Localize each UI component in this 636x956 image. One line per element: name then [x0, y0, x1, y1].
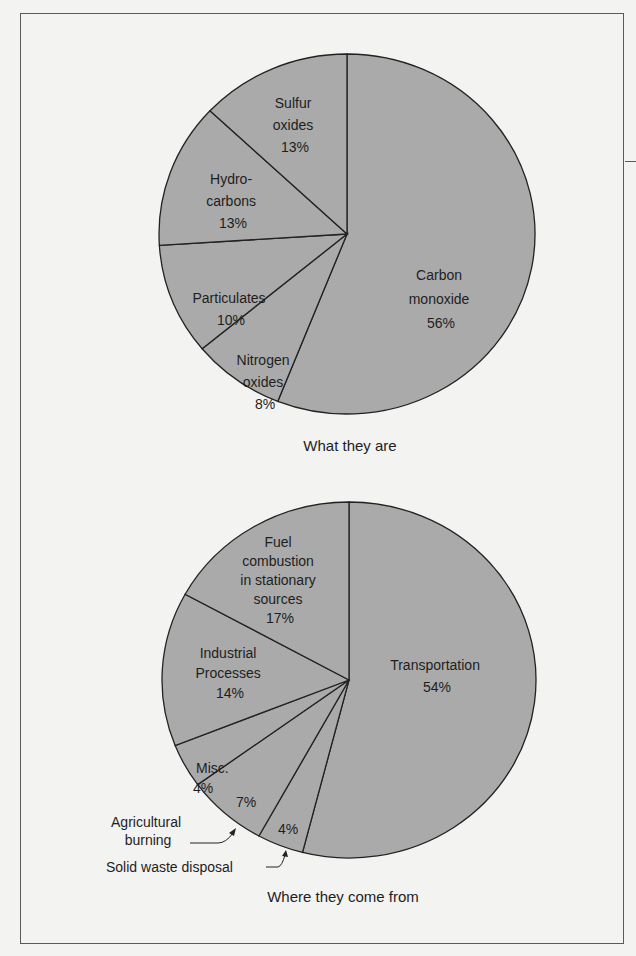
charts-canvas: Carbon monoxide 56% Nitrogen oxides 8% P… — [0, 0, 636, 956]
callout-agricultural-burning: Agricultural burning — [111, 814, 185, 848]
label-solid-waste-pct: 4% — [278, 821, 298, 837]
callout-solid-waste-disposal: Solid waste disposal — [106, 859, 233, 875]
caption-what-they-are: What they are — [303, 437, 396, 454]
caption-where-they-come-from: Where they come from — [267, 888, 419, 905]
callout-line-agricultural — [190, 833, 233, 843]
pie-what-they-are — [159, 54, 535, 414]
arrow-agricultural-icon — [229, 828, 236, 836]
callout-line-solid-waste — [266, 855, 285, 867]
label-agricultural-pct: 7% — [236, 794, 256, 810]
arrow-solid-waste-icon — [282, 850, 288, 857]
